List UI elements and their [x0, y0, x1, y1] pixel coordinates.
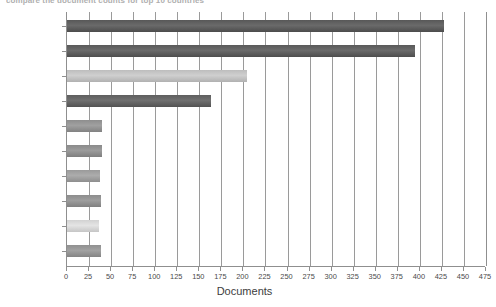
- bar-row: Canada: [67, 164, 485, 189]
- x-tick: [220, 267, 221, 271]
- x-tick: [110, 267, 111, 271]
- bar[interactable]: [67, 195, 101, 207]
- bar[interactable]: [67, 220, 99, 232]
- x-tick: [485, 267, 486, 271]
- bar[interactable]: [67, 120, 102, 132]
- x-tick: [397, 267, 398, 271]
- bar[interactable]: [67, 170, 100, 182]
- bar-row: Japan: [67, 64, 485, 89]
- y-tick: [62, 176, 66, 177]
- bar[interactable]: [67, 95, 211, 107]
- y-tick: [62, 101, 66, 102]
- bar-row: United Kingdom: [67, 139, 485, 164]
- x-tick: [66, 267, 67, 271]
- x-tick: [264, 267, 265, 271]
- y-tick: [62, 26, 66, 27]
- bar-row: United States: [67, 14, 485, 39]
- x-tick: [287, 267, 288, 271]
- bar-row: Germany: [67, 239, 485, 264]
- x-tick: [198, 267, 199, 271]
- bar-row: France: [67, 114, 485, 139]
- y-tick: [62, 226, 66, 227]
- y-tick: [62, 51, 66, 52]
- clipped-headline: compare the document counts for top 10 c…: [6, 0, 306, 6]
- bar[interactable]: [67, 145, 102, 157]
- x-tick: [331, 267, 332, 271]
- x-axis-title: Documents: [0, 285, 489, 297]
- x-tick: [242, 267, 243, 271]
- x-tick: [441, 267, 442, 271]
- x-tick-label: 475: [470, 272, 496, 281]
- bar-row: South Korea: [67, 89, 485, 114]
- bar-row: China: [67, 39, 485, 64]
- x-tick: [463, 267, 464, 271]
- bar[interactable]: [67, 20, 444, 32]
- gridline: [486, 12, 487, 266]
- y-tick: [62, 126, 66, 127]
- x-tick: [309, 267, 310, 271]
- bar-row: Spain: [67, 214, 485, 239]
- bar[interactable]: [67, 245, 101, 257]
- y-tick: [62, 151, 66, 152]
- x-tick: [176, 267, 177, 271]
- x-tick: [375, 267, 376, 271]
- bar[interactable]: [67, 45, 415, 57]
- x-tick: [353, 267, 354, 271]
- y-tick: [62, 201, 66, 202]
- x-tick: [419, 267, 420, 271]
- y-tick: [62, 76, 66, 77]
- plot-area: United StatesChinaJapanSouth KoreaFrance…: [66, 12, 485, 267]
- x-tick: [154, 267, 155, 271]
- bar-row: Australia: [67, 189, 485, 214]
- x-tick: [88, 267, 89, 271]
- y-tick: [62, 251, 66, 252]
- bar[interactable]: [67, 70, 247, 82]
- x-tick: [132, 267, 133, 271]
